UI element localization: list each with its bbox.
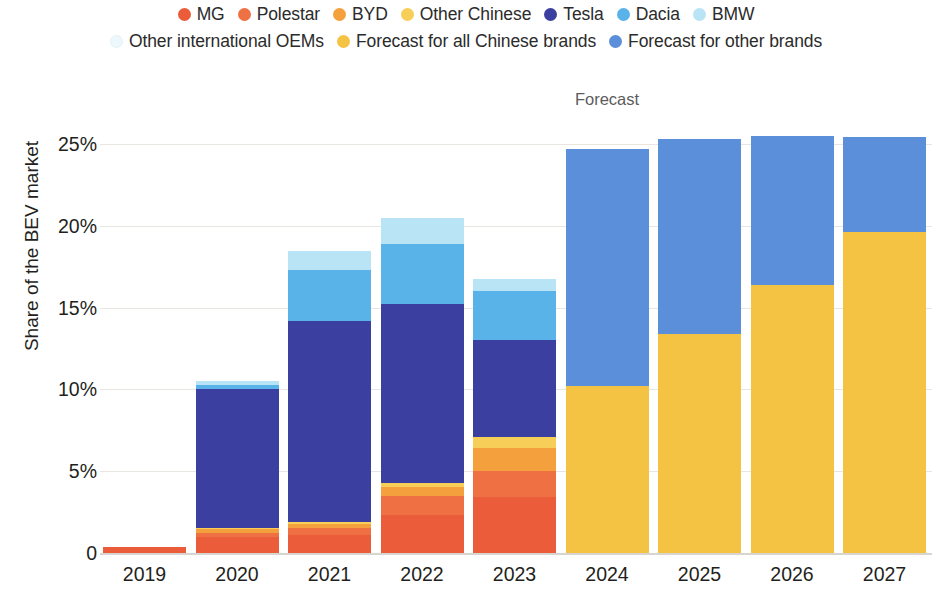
bar-segment-dacia-2022[interactable] (381, 244, 464, 305)
bar-stack-2027[interactable] (843, 552, 926, 553)
bar-segment-other-chinese-2021[interactable] (288, 522, 371, 524)
bar-stack-2023[interactable] (473, 552, 556, 553)
x-tick-label-2024: 2024 (566, 563, 649, 586)
bar-segment-other-chinese-2020[interactable] (196, 528, 279, 529)
bar-segment-dacia-2020[interactable] (196, 385, 279, 389)
bar-segment-bmw-2022[interactable] (381, 218, 464, 244)
bar-stack-2019[interactable] (103, 552, 186, 553)
bar-segment-dacia-2021[interactable] (288, 270, 371, 321)
x-tick-label-2027: 2027 (843, 563, 926, 586)
bar-segment-tesla-2022[interactable] (381, 304, 464, 482)
bar-segment-byd-2021[interactable] (288, 524, 371, 528)
x-tick-label-2026: 2026 (751, 563, 834, 586)
forecast-annotation: Forecast (558, 90, 657, 109)
x-tick-label-2022: 2022 (381, 563, 464, 586)
bar-segment-byd-2023[interactable] (473, 448, 556, 471)
bar-series-container (0, 0, 932, 591)
x-tick-label-2019: 2019 (103, 563, 186, 586)
bar-segment-other-chinese-2022[interactable] (381, 483, 464, 487)
bar-stack-2025[interactable] (658, 552, 741, 553)
bar-segment-polestar-2023[interactable] (473, 471, 556, 497)
bar-segment-mg-2023[interactable] (473, 497, 556, 553)
bar-segment-byd-2020[interactable] (196, 529, 279, 532)
bar-segment-bmw-2020[interactable] (196, 381, 279, 385)
bar-segment-tesla-2021[interactable] (288, 321, 371, 522)
bar-segment-forecast-for-all-chinese-brands-2026[interactable] (751, 285, 834, 553)
bar-segment-forecast-for-other-brands-2025[interactable] (658, 139, 741, 334)
bar-segment-dacia-2023[interactable] (473, 291, 556, 340)
bar-segment-forecast-for-all-chinese-brands-2025[interactable] (658, 334, 741, 553)
bar-segment-mg-2021[interactable] (288, 535, 371, 553)
bar-segment-mg-2022[interactable] (381, 515, 464, 553)
bar-segment-polestar-2020[interactable] (196, 533, 279, 537)
bar-segment-forecast-for-other-brands-2024[interactable] (566, 149, 649, 386)
bar-segment-mg-2020[interactable] (196, 537, 279, 553)
x-tick-label-2020: 2020 (196, 563, 279, 586)
bar-stack-2026[interactable] (751, 552, 834, 553)
plot-area: Share of the BEV market 25%20%15%10%5%0 … (0, 0, 932, 591)
bar-segment-forecast-for-all-chinese-brands-2027[interactable] (843, 232, 926, 553)
bar-segment-other-chinese-2023[interactable] (473, 437, 556, 448)
bar-segment-forecast-for-all-chinese-brands-2024[interactable] (566, 386, 649, 553)
x-tick-label-2023: 2023 (473, 563, 556, 586)
bar-segment-forecast-for-other-brands-2027[interactable] (843, 137, 926, 232)
bar-stack-2021[interactable] (288, 552, 371, 553)
bar-segment-forecast-for-other-brands-2026[interactable] (751, 136, 834, 285)
x-tick-label-2021: 2021 (288, 563, 371, 586)
bar-stack-2024[interactable] (566, 552, 649, 553)
bar-segment-bmw-2023[interactable] (473, 279, 556, 291)
bar-stack-2020[interactable] (196, 552, 279, 553)
x-tick-label-2025: 2025 (658, 563, 741, 586)
bar-segment-mg-2019[interactable] (103, 547, 186, 553)
bar-segment-polestar-2022[interactable] (381, 496, 464, 516)
bar-segment-bmw-2021[interactable] (288, 251, 371, 270)
bar-segment-tesla-2023[interactable] (473, 340, 556, 437)
bar-segment-byd-2022[interactable] (381, 487, 464, 496)
bar-stack-2022[interactable] (381, 552, 464, 553)
bar-segment-polestar-2021[interactable] (288, 528, 371, 535)
bar-segment-tesla-2020[interactable] (196, 389, 279, 528)
